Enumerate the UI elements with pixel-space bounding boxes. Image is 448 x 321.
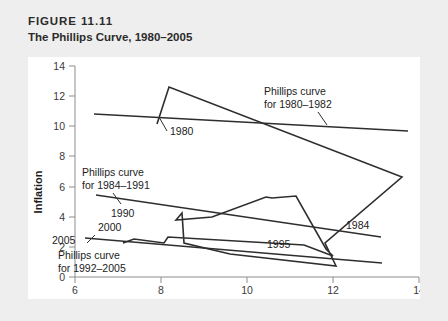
y-tick-6: 6 [59,181,65,193]
y-tick-4: 4 [59,211,65,223]
y-tick-14: 14 [53,60,65,72]
annotation-1984: 1984 [346,219,370,231]
x-axis: 6 8 10 12 14 [72,277,420,296]
annotation-1980: 1980 [159,117,194,137]
x-tick-8: 8 [158,284,164,296]
annotation-note-1992-2005: Phillips curve for 1992–2005 [58,249,126,274]
data-series-path [123,87,402,266]
label-1995: 1995 [267,238,291,250]
label-1980: 1980 [170,125,194,137]
label-2005: 2005 [52,234,76,246]
phillips-curve-chart: 14 12 10 8 6 4 2 0 Inflation 6 8 10 [28,57,420,299]
y-tick-12: 12 [53,90,65,102]
note-1980-1982-line2: for 1980–1982 [264,98,332,110]
x-tick-10: 10 [241,284,253,296]
phillips-curve-1992-2005-line [85,238,382,263]
annotation-1990: 1990 [111,207,135,219]
y-tick-10: 10 [53,120,65,132]
figure-number: FIGURE 11.11 [28,14,428,29]
label-2000: 2000 [98,221,122,233]
label-1990: 1990 [111,207,135,219]
x-tick-6: 6 [72,284,78,296]
figure-header: FIGURE 11.11 The Phillips Curve, 1980–20… [28,14,428,45]
note-1992-2005-line2: for 1992–2005 [58,262,126,274]
label-1984: 1984 [346,219,370,231]
note-1992-2005-line1: Phillips curve [58,249,120,261]
x-tick-12: 12 [327,284,339,296]
plot-area: 14 12 10 8 6 4 2 0 Inflation 6 8 10 [28,57,420,299]
x-tick-14: 14 [413,284,420,296]
figure-container: FIGURE 11.11 The Phillips Curve, 1980–20… [0,0,448,321]
note-1984-1991-line1: Phillips curve [82,166,144,178]
annotation-1995: 1995 [267,238,291,250]
note-1980-1982-line1: Phillips curve [264,85,326,97]
figure-title: The Phillips Curve, 1980–2005 [28,30,428,45]
y-axis-title: Inflation [32,170,44,213]
phillips-curve-1980-1982-line [94,114,408,131]
annotation-2005: 2005 [52,234,95,246]
note-1984-1991-line2: for 1984–1991 [82,179,150,191]
annotation-2000: 2000 [98,221,122,233]
annotation-note-1980-1982: Phillips curve for 1980–1982 [264,85,332,125]
y-tick-8: 8 [59,150,65,162]
